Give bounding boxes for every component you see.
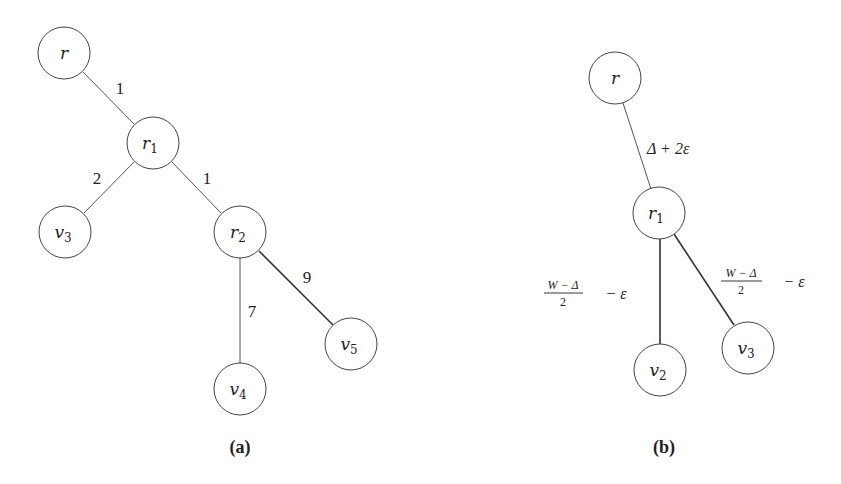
edge-weight-r1-v3: 2: [93, 169, 102, 188]
node-r1: r1: [127, 117, 179, 169]
diagram-b: Δ + 2ε W − Δ 2 − ε W − Δ 2 − ε r r1 v2: [544, 52, 805, 458]
node-v5: v5: [325, 318, 377, 370]
edge-r1-r2: [172, 162, 221, 213]
svg-text:r: r: [60, 43, 69, 63]
edge-weight-r1-v2: W − Δ 2 − ε: [544, 278, 627, 309]
node-v3: v3: [722, 322, 774, 374]
edge-r-r1: [83, 72, 134, 124]
node-v2: v2: [634, 344, 686, 396]
svg-text:− ε: − ε: [605, 285, 627, 302]
edge-weight-r1-v3: W − Δ 2 − ε: [721, 266, 805, 297]
edge-r1-v3: [84, 162, 134, 213]
node-r: r: [589, 52, 641, 104]
edge-weight-r-r1: 1: [116, 79, 125, 98]
caption-b: (b): [653, 437, 675, 458]
caption-a: (a): [230, 437, 251, 458]
edge-weight-r2-v4: 7: [248, 302, 257, 321]
svg-text:r: r: [611, 68, 620, 88]
svg-text:2: 2: [560, 295, 566, 309]
svg-text:− ε: − ε: [783, 273, 805, 290]
svg-text:2: 2: [738, 283, 744, 297]
edge-weight-r1-r2: 1: [203, 169, 212, 188]
edge-r2-v5: [259, 251, 333, 325]
tree-diagrams: 1 2 1 7 9 r r1 v3 r2 v4 v5 (a): [0, 0, 841, 484]
node-r: r: [38, 27, 90, 79]
node-v4: v4: [214, 363, 266, 415]
edge-weight-r2-v5: 9: [303, 268, 312, 287]
node-r1: r1: [633, 187, 685, 239]
node-r2: r2: [214, 206, 266, 258]
node-v3: v3: [39, 206, 91, 258]
svg-text:W − Δ: W − Δ: [547, 278, 578, 292]
svg-text:W − Δ: W − Δ: [725, 266, 756, 280]
edge-weight-r-r1: Δ + 2ε: [646, 140, 690, 157]
diagram-a: 1 2 1 7 9 r r1 v3 r2 v4 v5 (a): [38, 27, 377, 458]
